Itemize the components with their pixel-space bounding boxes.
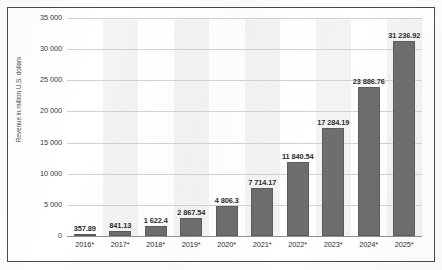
x-axis-ticks: 2016*2017*2018*2019*2020*2021*2022*2023*… xyxy=(67,240,422,254)
bar-value-label: 7 714.17 xyxy=(245,178,281,187)
bar[interactable] xyxy=(358,87,380,236)
bar-value-label: 11 840.54 xyxy=(280,152,316,161)
plot-area: 357.89841.131 622.42 867.544 806.37 714.… xyxy=(67,18,422,236)
bar-value-label: 841.13 xyxy=(103,221,139,230)
gridline xyxy=(67,49,422,50)
bar-value-label: 17 284.19 xyxy=(316,118,352,127)
axis-baseline xyxy=(67,236,422,237)
background-band xyxy=(174,18,210,236)
x-axis-tick-label: 2025* xyxy=(387,240,423,249)
bar-value-label: 2 867.54 xyxy=(174,208,210,217)
bar-value-label: 357.89 xyxy=(67,224,103,233)
bar[interactable] xyxy=(74,234,96,236)
y-axis-ticks: 05 00010 00015 00020 00025 00030 00035 0… xyxy=(14,18,62,236)
y-axis-tick-label: 35 000 xyxy=(40,13,62,22)
bar-value-label: 4 806.3 xyxy=(209,196,245,205)
y-axis-tick-label: 0 xyxy=(58,231,62,240)
gridline xyxy=(67,18,422,19)
background-band xyxy=(103,18,139,236)
y-axis-tick-label: 15 000 xyxy=(40,138,62,147)
x-axis-tick-label: 2017* xyxy=(103,240,139,249)
bar[interactable] xyxy=(109,231,131,236)
y-axis-tick-label: 10 000 xyxy=(40,169,62,178)
y-axis-tick-label: 20 000 xyxy=(40,106,62,115)
y-axis-tick-label: 25 000 xyxy=(40,75,62,84)
bar[interactable] xyxy=(322,128,344,236)
y-axis-tick-label: 5 000 xyxy=(44,200,62,209)
bar[interactable] xyxy=(287,162,309,236)
bar[interactable] xyxy=(145,226,167,236)
chart-figure: Revenue in million U.S. dollars 05 00010… xyxy=(0,0,442,270)
x-axis-tick-label: 2023* xyxy=(316,240,352,249)
bar-value-label: 31 236.92 xyxy=(387,31,423,40)
x-axis-tick-label: 2022* xyxy=(280,240,316,249)
bar-value-label: 1 622.4 xyxy=(138,216,174,225)
x-axis-tick-label: 2019* xyxy=(174,240,210,249)
y-axis-tick-label: 30 000 xyxy=(40,44,62,53)
x-axis-tick-label: 2016* xyxy=(67,240,103,249)
bar[interactable] xyxy=(180,218,202,236)
x-axis-tick-label: 2021* xyxy=(245,240,281,249)
bar[interactable] xyxy=(216,206,238,236)
x-axis-tick-label: 2024* xyxy=(351,240,387,249)
bar[interactable] xyxy=(393,41,415,236)
x-axis-tick-label: 2020* xyxy=(209,240,245,249)
bar[interactable] xyxy=(251,188,273,236)
x-axis-tick-label: 2018* xyxy=(138,240,174,249)
bar-value-label: 23 886.76 xyxy=(351,77,387,86)
